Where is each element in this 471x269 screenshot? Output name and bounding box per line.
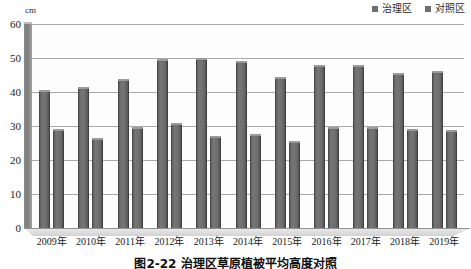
bar-front-face <box>314 67 325 229</box>
y-axis-tick-label: 40 <box>10 87 21 98</box>
bar-front-face <box>393 75 404 228</box>
bar-group <box>39 24 64 228</box>
chart-floor <box>24 228 471 236</box>
y-axis-unit-label: cm <box>25 5 36 15</box>
bar[interactable] <box>210 138 221 228</box>
x-axis-tick-label: 2010年 <box>76 236 106 248</box>
bar[interactable] <box>171 125 182 228</box>
bar-front-face <box>432 73 443 228</box>
bar-group <box>78 24 103 228</box>
x-axis-tick-label: 2011年 <box>115 236 145 248</box>
legend-item-label: 治理区 <box>382 4 412 14</box>
x-axis-tick-label: 2009年 <box>37 236 67 248</box>
x-axis-tick-label: 2014年 <box>233 236 263 248</box>
y-axis: 6050403020100 <box>0 18 24 233</box>
figure-caption: 图2-22 治理区草原植被平均高度对照 <box>0 257 471 269</box>
bar[interactable] <box>196 60 207 228</box>
bar-group <box>353 24 378 228</box>
bar[interactable] <box>39 92 50 228</box>
x-axis-tick-label: 2019年 <box>429 236 459 248</box>
x-axis-tick-label: 2012年 <box>154 236 184 248</box>
bar-front-face <box>407 131 418 228</box>
x-axis-tick-label: 2018年 <box>390 236 420 248</box>
bar[interactable] <box>328 129 339 228</box>
bar-group <box>118 24 143 228</box>
x-axis-tick-label: 2015年 <box>272 236 302 248</box>
bar[interactable] <box>53 131 64 228</box>
bar-group <box>432 24 457 228</box>
bar-front-face <box>132 129 143 228</box>
bar[interactable] <box>118 81 129 228</box>
bar-front-face <box>171 125 182 228</box>
x-axis: 2009年2010年2011年2012年2013年2014年2015年2016年… <box>24 236 471 252</box>
bar-front-face <box>328 129 339 228</box>
bar[interactable] <box>275 79 286 228</box>
bar-front-face <box>353 67 364 228</box>
bar-front-face <box>236 63 247 228</box>
y-axis-tick-label: 0 <box>16 223 22 234</box>
bar-front-face <box>157 61 168 228</box>
y-axis-tick-label: 50 <box>10 53 21 64</box>
y-axis-tick-label: 10 <box>10 189 21 200</box>
bar-group <box>236 24 261 228</box>
bar-front-face <box>92 140 103 228</box>
bar[interactable] <box>432 73 443 228</box>
bar[interactable] <box>289 143 300 228</box>
bar-front-face <box>446 132 457 228</box>
bar[interactable] <box>132 129 143 228</box>
bar-group <box>157 24 182 228</box>
bar-group <box>196 24 221 228</box>
bars-layer <box>32 24 464 228</box>
y-axis-tick-label: 20 <box>10 155 21 166</box>
bar[interactable] <box>446 132 457 228</box>
bar[interactable] <box>393 75 404 228</box>
bar-group <box>393 24 418 228</box>
bar-front-face <box>196 60 207 228</box>
chart-legend: 治理区对照区 <box>372 2 465 16</box>
y-axis-tick-label: 30 <box>10 121 21 132</box>
axis-left-wall <box>24 24 32 228</box>
x-axis-tick-label: 2013年 <box>194 236 224 248</box>
legend-item[interactable]: 治理区 <box>372 4 412 14</box>
legend-swatch-icon <box>372 6 378 12</box>
bar[interactable] <box>250 136 261 228</box>
bar-group <box>314 24 339 228</box>
legend-swatch-icon <box>425 6 431 12</box>
bar[interactable] <box>92 140 103 228</box>
bar-front-face <box>78 89 89 228</box>
bar-front-face <box>367 129 378 228</box>
legend-item-label: 对照区 <box>435 4 465 14</box>
y-axis-tick-label: 60 <box>10 19 21 30</box>
bar-front-face <box>289 143 300 228</box>
x-axis-tick-label: 2017年 <box>351 236 381 248</box>
bar[interactable] <box>407 131 418 228</box>
x-axis-tick-label: 2016年 <box>312 236 342 248</box>
bar[interactable] <box>157 61 168 228</box>
bar[interactable] <box>236 63 247 228</box>
bar-group <box>275 24 300 228</box>
bar[interactable] <box>314 67 325 229</box>
bar-front-face <box>118 81 129 228</box>
bar[interactable] <box>78 89 89 228</box>
bar-front-face <box>250 136 261 228</box>
bar[interactable] <box>353 67 364 228</box>
bar-front-face <box>210 138 221 228</box>
chart-figure: 治理区对照区 cm 6050403020100 2009年2010年2011年2… <box>0 0 471 269</box>
legend-item[interactable]: 对照区 <box>425 4 465 14</box>
bar[interactable] <box>367 129 378 228</box>
bar-front-face <box>53 131 64 228</box>
bar-front-face <box>39 92 50 228</box>
bar-front-face <box>275 79 286 228</box>
